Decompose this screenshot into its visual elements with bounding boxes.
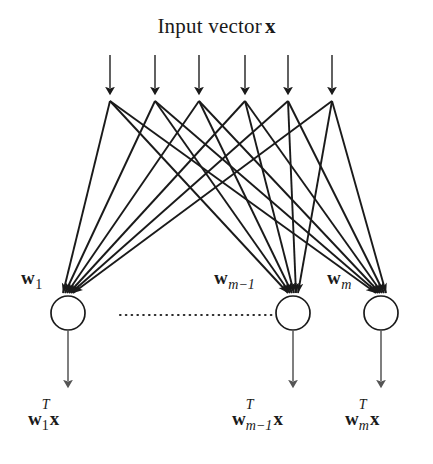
weight-label-1: w1 — [21, 268, 42, 291]
output-subscript: m — [359, 417, 369, 433]
weight-subscript: m — [341, 276, 352, 292]
edge-in2-node1 — [65, 101, 155, 293]
edge-in4-node1 — [69, 101, 245, 293]
edge-in3-node2 — [199, 101, 292, 293]
output-superscript-t: T — [42, 397, 50, 411]
unit-nodes — [51, 296, 398, 330]
weight-symbol: w — [327, 267, 341, 288]
output-label-3: wTmx — [345, 409, 379, 432]
weight-label-3: wm — [327, 268, 351, 291]
node-circle-3 — [364, 296, 398, 330]
output-weight-symbol: w — [28, 408, 42, 429]
weight-symbol: w — [21, 267, 35, 288]
output-weight-symbol: w — [232, 408, 246, 429]
weight-symbol: w — [214, 267, 228, 288]
output-arrows — [68, 331, 381, 381]
output-weight-symbol: w — [345, 408, 359, 429]
output-script-group: Tm−1 — [246, 409, 273, 432]
connection-edges — [63, 101, 386, 293]
weight-subscript: m−1 — [228, 276, 255, 292]
edge-in6-node3 — [332, 101, 386, 293]
weight-subscript: 1 — [35, 276, 43, 292]
neural-network-figure: Input vectorx — [0, 0, 433, 464]
output-label-2: wTm−1x — [232, 409, 283, 432]
edge-in1-node2 — [110, 101, 288, 293]
output-subscript: 1 — [42, 417, 49, 433]
output-script-group: T1 — [42, 409, 49, 432]
diagram-canvas — [0, 0, 433, 464]
output-vector-x: x — [49, 408, 60, 429]
output-label-1: wT1x — [28, 409, 59, 432]
output-vector-x: x — [369, 408, 380, 429]
edge-in6-node1 — [73, 101, 332, 293]
node-circle-2 — [276, 296, 310, 330]
output-script-group: Tm — [359, 409, 369, 432]
weight-label-2: wm−1 — [214, 268, 255, 291]
node-circle-1 — [51, 296, 85, 330]
input-arrows — [110, 55, 332, 88]
output-superscript-t: T — [246, 397, 254, 411]
output-vector-x: x — [272, 408, 283, 429]
output-superscript-t: T — [359, 397, 367, 411]
output-subscript: m−1 — [246, 417, 273, 433]
